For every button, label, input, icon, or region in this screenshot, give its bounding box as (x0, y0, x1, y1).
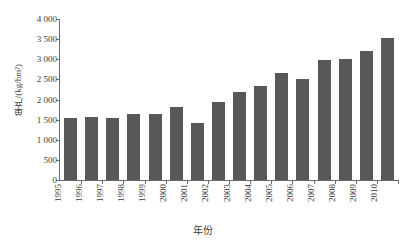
bar (106, 118, 119, 180)
bar (149, 114, 162, 180)
x-axis-title: 年份 (0, 222, 405, 237)
bar (381, 38, 394, 180)
x-axis-tick-label: 2010 (369, 184, 403, 202)
bar (127, 114, 140, 180)
bar (275, 73, 288, 180)
x-axis-title-text: 年份 (193, 225, 213, 236)
bar (170, 107, 183, 180)
y-axis-tick-label: 1 000 (37, 135, 57, 144)
y-axis-tick-label: 2 500 (37, 75, 57, 84)
y-axis-tick (56, 19, 60, 20)
bar (85, 117, 98, 180)
y-axis-tick (56, 100, 60, 101)
y-axis-tick (56, 140, 60, 141)
bar (296, 79, 309, 180)
plot-area (59, 19, 398, 181)
y-axis-tick (56, 79, 60, 80)
bar (339, 59, 352, 180)
y-axis-tick-label: 2 000 (37, 95, 57, 104)
y-axis-tick (56, 160, 60, 161)
bar (64, 118, 77, 180)
y-axis-tick (56, 59, 60, 60)
bar (212, 102, 225, 180)
y-axis-tick-label: 1 500 (37, 115, 57, 124)
bar (191, 123, 204, 180)
bar (360, 51, 373, 180)
y-axis-tick (56, 180, 60, 181)
bar (233, 92, 246, 180)
bar (318, 60, 331, 180)
y-axis-tick (56, 120, 60, 121)
y-axis-title-text: 单产/(kg/hm²) (11, 64, 24, 116)
y-axis-tick-label: 500 (44, 155, 58, 164)
y-axis-tick-labels: 05001 0001 5002 0002 5003 0003 5004 000 (24, 0, 57, 200)
y-axis-tick-label: 3 000 (37, 55, 57, 64)
bar (254, 86, 267, 180)
bar-chart-figure: 单产/(kg/hm²) 05001 0001 5002 0002 5003 00… (0, 0, 405, 245)
y-axis-tick-label: 3 500 (37, 35, 57, 44)
x-axis-tick-labels: 1995199619971998199920002001200220032004… (59, 184, 397, 218)
y-axis-tick-label: 4 000 (37, 15, 57, 24)
y-axis-tick (56, 39, 60, 40)
